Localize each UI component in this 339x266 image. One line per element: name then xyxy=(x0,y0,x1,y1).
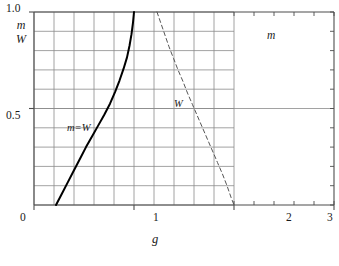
x-axis-label: g xyxy=(152,232,158,247)
curve-label-w: W xyxy=(174,98,183,109)
y-tick-label-1: 1.0 xyxy=(6,2,20,14)
region-label-m: m xyxy=(267,29,275,41)
y-axis-label: m W xyxy=(8,18,34,46)
y-tick-label-0-5: 0.5 xyxy=(6,109,20,121)
y-axis-label-numerator: m xyxy=(8,18,34,32)
x-tick-label-0: 0 xyxy=(20,211,26,223)
x-tick-label-2: 2 xyxy=(286,211,292,223)
chart-figure: m W 1.0 0.5 0 1 2 3 g m=W W m xyxy=(0,0,339,266)
y-axis-label-denominator: W xyxy=(8,32,34,46)
curve-label-mw: m=W xyxy=(67,122,90,133)
x-tick-label-1: 1 xyxy=(153,211,159,223)
plot-area xyxy=(0,0,339,266)
x-tick-label-3: 3 xyxy=(327,211,333,223)
